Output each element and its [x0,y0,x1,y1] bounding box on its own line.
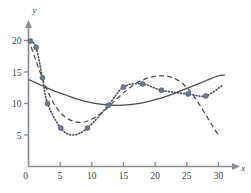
x-axis-arrow [232,163,240,170]
y-tick-label: 15 [12,68,22,78]
x-tick-label: 5 [58,171,63,181]
y-axis-arrow [25,20,32,28]
x-axis-label: x [240,163,245,173]
x-tick-label: 25 [182,171,192,181]
chart-figure: yx5101520253005101520 [0,0,251,193]
y-tick-label: 5 [17,131,22,141]
data-point-marker [58,126,63,131]
y-axis-label: y [32,5,37,15]
regression-scatter-chart: yx5101520253005101520 [0,0,251,193]
x-tick-label: 20 [150,171,160,181]
y-tick-label: 10 [12,99,22,109]
x-tick-label: 15 [119,171,129,181]
data-point-marker [140,81,145,86]
x-tick-label: 10 [87,171,97,181]
x-tick-label: 30 [214,171,224,181]
data-point-marker [121,85,126,90]
data-point-marker [159,88,164,93]
y-tick-label: 20 [12,36,22,46]
data-point-marker [186,92,191,97]
data-point-marker [106,103,111,108]
data-point-marker [85,126,90,131]
data-point-marker [34,45,39,50]
data-point-marker [45,101,50,106]
origin-tick-label: 0 [23,171,28,181]
data-point-marker [28,39,33,44]
data-point-marker [203,93,208,98]
data-point-marker [40,75,45,80]
